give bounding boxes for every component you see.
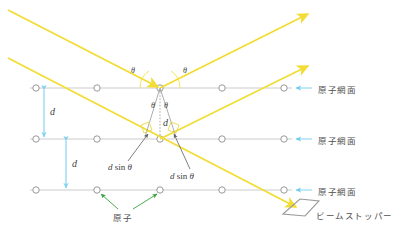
- incident-beam-upper: [8, 10, 158, 87]
- atom: [281, 85, 287, 91]
- path-difference-label-right: d sin θ: [170, 171, 194, 181]
- bragg-diffraction-figure: 原子網面 原子網面 原子網面 d d d θ θ θ θ d sin θ d s…: [0, 0, 404, 234]
- spacing-label-lower: d: [72, 158, 77, 169]
- path-difference-label-left: d sin θ: [108, 162, 132, 172]
- plane-label-top: 原子網面: [318, 83, 356, 95]
- plane-label-bottom: 原子網面: [318, 185, 356, 197]
- inner-angle-label-right: θ: [164, 101, 168, 110]
- atom: [33, 136, 39, 142]
- atom: [94, 136, 100, 142]
- atom: [94, 85, 100, 91]
- path-difference-sin: sin: [113, 162, 128, 172]
- bragg-angle-label-incident: θ: [131, 66, 135, 75]
- plane-label-middle: 原子網面: [318, 134, 356, 146]
- atom-callout-arrow-left: [101, 194, 118, 209]
- atom: [219, 136, 225, 142]
- incident-beam-lower: [8, 58, 296, 207]
- spacing-label-inner: d: [163, 117, 168, 128]
- bragg-angle-label-diffracted: θ: [183, 66, 187, 75]
- atom: [219, 85, 225, 91]
- atom-label: 原子: [113, 211, 132, 223]
- path-difference-theta: θ: [190, 171, 194, 181]
- lattice-plane-bottom: [30, 187, 292, 193]
- atom: [219, 187, 225, 193]
- atom: [94, 187, 100, 193]
- path-difference-sin: sin: [175, 171, 190, 181]
- atom: [281, 187, 287, 193]
- diagram-canvas: [0, 0, 404, 234]
- atom: [33, 85, 39, 91]
- atom: [33, 187, 39, 193]
- atom: [157, 187, 163, 193]
- callout-arrow-left: [128, 134, 148, 161]
- spacing-label-upper: d: [50, 106, 55, 117]
- beam-stopper-icon: [283, 199, 319, 216]
- inner-angle-label-left: θ: [151, 101, 155, 110]
- path-difference-triangle: [145, 88, 176, 137]
- path-difference-theta: θ: [128, 162, 132, 172]
- beam-stopper-label: ビームストッパー: [316, 209, 393, 221]
- atom: [281, 136, 287, 142]
- atom-callout-arrow-right: [133, 194, 157, 209]
